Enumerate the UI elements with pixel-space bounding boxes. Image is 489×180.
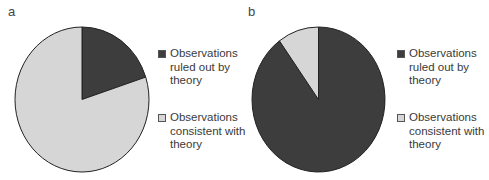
legend-label: Observations consistent with theory <box>170 111 250 152</box>
swatch-consistent <box>397 114 405 122</box>
legend-label: Observations consistent with theory <box>409 111 489 152</box>
pie-chart-b <box>240 0 479 180</box>
panel-b: b Observations ruled out by theory Obser… <box>240 0 479 180</box>
pie-slices <box>15 27 149 172</box>
legend-label: Observations ruled out by theory <box>170 47 250 88</box>
pie-slices <box>252 27 385 172</box>
swatch-ruled-out <box>158 50 166 58</box>
pie-chart-a <box>0 0 240 180</box>
swatch-ruled-out <box>397 50 405 58</box>
panel-a: a Observations ruled out by theory Obser… <box>0 0 240 180</box>
legend-label: Observations ruled out by theory <box>409 47 489 88</box>
swatch-consistent <box>158 114 166 122</box>
